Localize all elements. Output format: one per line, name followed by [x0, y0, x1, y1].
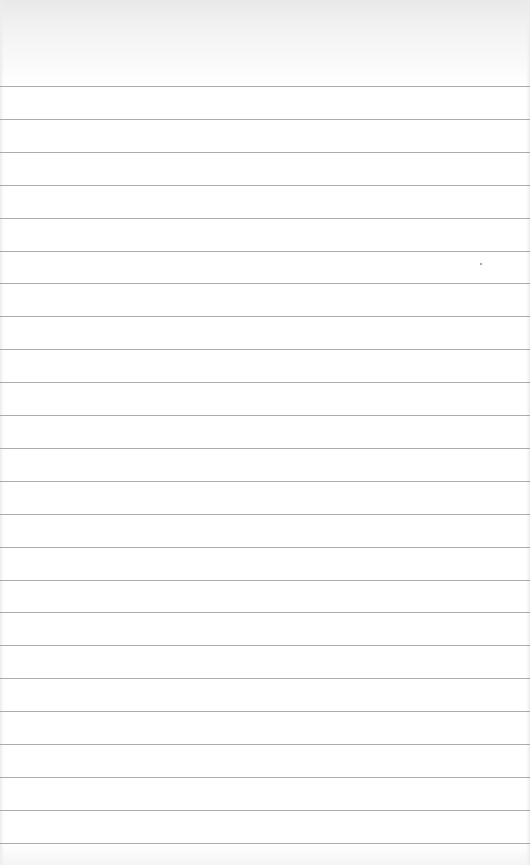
ruled-line — [0, 152, 530, 153]
ruled-line — [0, 580, 530, 581]
ruled-line — [0, 612, 530, 613]
ruled-line — [0, 711, 530, 712]
ruled-line — [0, 218, 530, 219]
ruled-line — [0, 251, 530, 252]
lined-paper-sheet — [0, 0, 530, 865]
ruled-line — [0, 119, 530, 120]
paper-left-edge-shadow — [0, 0, 4, 865]
ruled-line — [0, 843, 530, 844]
ruled-line — [0, 86, 530, 87]
ruled-line — [0, 382, 530, 383]
ruled-line — [0, 316, 530, 317]
ruled-line — [0, 777, 530, 778]
ruled-line — [0, 349, 530, 350]
ruled-line — [0, 678, 530, 679]
ruled-line — [0, 283, 530, 284]
ruled-line — [0, 448, 530, 449]
ruled-line — [0, 185, 530, 186]
ruled-line — [0, 645, 530, 646]
paper-right-edge-shadow — [526, 0, 530, 865]
ruled-line — [0, 744, 530, 745]
paper-speck — [480, 263, 482, 265]
ruled-line — [0, 547, 530, 548]
ruled-line — [0, 481, 530, 482]
ruled-line — [0, 415, 530, 416]
ruled-line — [0, 810, 530, 811]
ruled-line — [0, 514, 530, 515]
